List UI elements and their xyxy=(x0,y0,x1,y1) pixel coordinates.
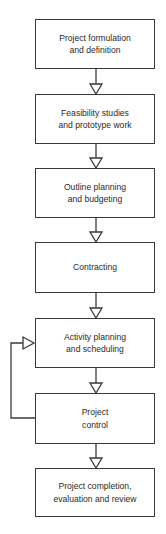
step-project-control: Project control xyxy=(35,393,155,444)
arrow-down-icon xyxy=(90,292,102,318)
step-label: Project formulation and definition xyxy=(59,32,131,57)
step-feasibility-studies: Feasibility studies and prototype work xyxy=(35,94,155,144)
step-label: Feasibility studies and prototype work xyxy=(58,107,131,132)
step-outline-planning: Outline planning and budgeting xyxy=(35,168,155,218)
feedback-loop-arrow-icon xyxy=(11,337,35,418)
step-label: Contracting xyxy=(73,261,117,274)
arrow-down-icon xyxy=(90,143,102,168)
step-label: Project completion, evaluation and revie… xyxy=(53,480,136,505)
arrow-down-icon xyxy=(90,367,102,393)
arrow-down-icon xyxy=(90,217,102,242)
step-label: Outline planning and budgeting xyxy=(64,181,126,206)
step-label: Project control xyxy=(82,406,109,431)
step-project-formulation: Project formulation and definition xyxy=(35,19,155,69)
arrow-down-icon xyxy=(90,68,102,94)
step-project-completion: Project completion, evaluation and revie… xyxy=(35,468,155,517)
arrow-down-icon xyxy=(90,443,102,468)
step-contracting: Contracting xyxy=(35,242,155,293)
step-label: Activity planning and scheduling xyxy=(64,331,126,356)
step-activity-planning: Activity planning and scheduling xyxy=(35,318,155,368)
